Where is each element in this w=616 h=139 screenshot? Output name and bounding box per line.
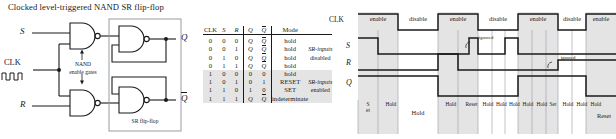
cell-r: 1 [230,78,244,86]
logic-label-clk: CLK [4,58,21,67]
cell-r: 0 [230,37,244,45]
mode-label: Hold [586,102,600,108]
cell-clk: 0 [203,54,218,62]
sr-flipflop-caption: SR flip-flop [112,118,178,124]
cell-clk: 0 [203,62,218,70]
truth-table: CLK S R Q Q Mode 0 0 0 Q Q hold 0 0 [203,26,332,103]
th-qbar: Q [257,26,272,35]
logic-label-qbar: Q [181,93,188,103]
cell-s: 0 [218,78,230,86]
cell-note [308,95,332,103]
cell-qbar: Q [257,62,272,70]
cell-note: disabled [308,54,332,62]
cell-s: 1 [218,62,230,70]
cell-q: 1 [244,86,258,94]
cell-r: 1 [230,62,244,70]
cell-mode: hold [272,54,309,62]
timing-label-q: Q [346,78,352,87]
cell-r: 0 [230,54,244,62]
cell-r: 0 [230,70,244,78]
table-row: 0 0 1 Q Q hold SR-inputs [203,45,332,53]
logic-label-r: R [20,99,26,109]
nand-caption-line2: enable gates [55,69,111,75]
timing-diagram: CLK S R Q enable disable enable disable … [330,8,616,139]
th-s: S [218,26,230,35]
mode-label: Reset [458,102,478,108]
table-row: 1 1 1 Q Q indeterminate [203,95,332,103]
th-q: Q [244,26,258,35]
mode-label: Set [546,102,558,108]
mode-label: Hold [518,102,532,108]
table-row: 1 0 0 0 0 hold [203,70,332,78]
clk-phase-label: enable [438,15,478,22]
clk-phase-label: enable [586,15,616,22]
mode-label: Hold [398,109,438,116]
cell-qbar: 1 [257,78,272,86]
ignored-annotation-2: ignored [555,55,581,60]
clk-phase-label: enable [518,15,558,22]
nand-caption-line1: NAND [62,61,104,67]
timing-label-r: R [346,58,351,67]
logic-label-s: S [20,26,25,36]
cell-s: 0 [218,37,230,45]
cell-mode: indeterminate [272,95,309,103]
cell-note [308,37,332,45]
cell-clk: 0 [203,37,218,45]
cell-mode: hold [272,70,309,78]
cell-clk: 1 [203,70,218,78]
clk-phase-label: enable [358,15,398,22]
mode-label: Hold [478,102,492,108]
mode-label: Hold [572,102,586,108]
cell-clk: 1 [203,95,218,103]
clk-phase-label: disable [398,15,438,22]
cell-s: 1 [218,54,230,62]
mode-label: Set [358,102,378,113]
cell-clk: 0 [203,45,218,53]
table-row: 1 0 1 0 1 RESET SR-inputs [203,78,332,86]
cell-q: Q [244,95,258,103]
mode-label: Hold [378,102,398,108]
cell-note: enabled [308,86,332,94]
table-row: 0 0 0 Q Q hold [203,37,332,45]
cell-q: Q [244,54,258,62]
cell-note: SR-inputs [308,78,332,86]
clk-phase-label: disable [558,15,586,22]
timing-label-clk: CLK [329,15,344,24]
cell-clk: 1 [203,86,218,94]
th-r: R [230,26,244,35]
cell-note [308,62,332,70]
timing-label-s: S [346,41,350,50]
cell-r: 1 [230,95,244,103]
cell-s: 0 [218,70,230,78]
cell-note: SR-inputs [308,45,332,53]
cell-r: 1 [230,45,244,53]
ignored-annotation-1: ignored [473,35,499,40]
table-row: 0 1 1 Q Q hold [203,62,332,70]
mode-label: Hold [492,102,505,108]
table-row: 1 1 0 1 0 SET enabled [203,86,332,94]
mode-label: Hold [558,102,572,108]
cell-mode: hold [272,37,309,45]
cell-s: 1 [218,95,230,103]
table-row: 0 1 0 Q Q hold disabled [203,54,332,62]
th-note [308,26,332,35]
cell-qbar: Q [257,95,272,103]
th-clk: CLK [203,26,218,35]
cell-r: 0 [230,86,244,94]
mode-label: Hold [438,102,458,108]
cell-mode: hold [272,62,309,70]
cell-q: Q [244,62,258,70]
th-mode: Mode [272,26,309,35]
logic-diagram: S CLK R Q Q NAND enable gates SR flip-fl… [0,18,200,136]
clk-phase-label: disable [478,15,518,22]
mode-label: Hold [532,102,546,108]
figure-root: Clocked level-triggered NAND SR flip-flo… [0,0,616,139]
timing-diagram-svg [330,8,616,139]
mode-label: Hold [505,102,518,108]
cell-s: 0 [218,45,230,53]
cell-q: Q [244,37,258,45]
logic-label-q: Q [181,32,188,42]
truth-table-header-row: CLK S R Q Q Mode [203,26,332,35]
cell-qbar: 0 [257,70,272,78]
cell-note [308,70,332,78]
